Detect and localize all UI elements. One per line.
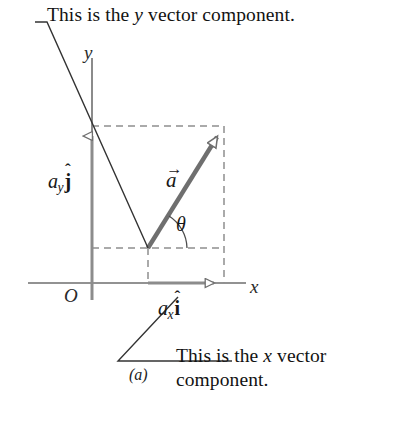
vector-a-label: →a <box>166 168 177 193</box>
y-axis-label: y <box>84 42 92 64</box>
caption-top-before: This is the <box>47 4 134 25</box>
caption-top-after: vector component. <box>143 4 295 25</box>
i-hat-icon: ˆ <box>174 287 180 307</box>
x-component-label: axˆi <box>158 297 180 323</box>
angle-theta-label: θ <box>176 213 186 236</box>
j-unit-vector: ˆj <box>65 170 72 192</box>
panel-label: (a) <box>129 366 148 384</box>
caption-bottom-italic: x <box>263 345 272 366</box>
caption-y-component: This is the y vector component. <box>47 3 417 27</box>
caption-top-italic: y <box>134 4 143 25</box>
ax-subscript: x <box>167 307 173 322</box>
caption-x-component: This is the x vector component. <box>176 344 416 392</box>
caption-bottom-before: This is the <box>176 345 263 366</box>
y-component-label: ayˆj <box>48 170 71 196</box>
origin-label: O <box>64 285 78 307</box>
x-axis-label: x <box>250 276 258 298</box>
ay-subscript: y <box>57 180 63 195</box>
j-hat-icon: ˆ <box>65 160 71 180</box>
i-unit-vector: ˆi <box>175 297 181 319</box>
vector-arrow-icon: → <box>166 159 181 179</box>
figure-container: This is the y vector component. This is … <box>0 0 419 433</box>
